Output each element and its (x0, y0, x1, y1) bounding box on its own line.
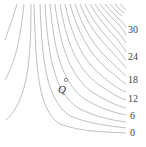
point-q-marker (64, 78, 67, 81)
contour-line (5, 4, 24, 80)
contour-map: Q 30 24 18 12 6 0 (0, 0, 146, 147)
contour-line-18 (75, 4, 126, 76)
level-label-18: 18 (128, 74, 138, 85)
contour-line (120, 4, 126, 10)
level-label-12: 12 (128, 93, 138, 104)
level-label-6: 6 (130, 110, 135, 121)
point-q-label: Q (58, 83, 66, 95)
level-label-24: 24 (128, 51, 138, 62)
level-label-0: 0 (130, 127, 135, 138)
contour-line-6 (45, 4, 126, 122)
contour-line (5, 4, 17, 40)
contour-line (6, 4, 31, 120)
level-label-30: 30 (128, 24, 138, 35)
contour-line (100, 4, 126, 35)
contour-line-0 (34, 4, 126, 133)
